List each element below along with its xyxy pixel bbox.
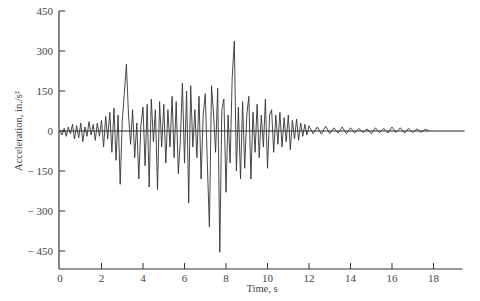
y-tick-label: − 150 [28, 165, 54, 177]
x-axis-title: Time, s [246, 283, 277, 294]
y-tick-label: 150 [37, 85, 54, 97]
x-tick-label: 2 [99, 272, 105, 284]
y-tick-label: 300 [37, 45, 54, 57]
y-tick-label: − 300 [28, 205, 54, 217]
x-tick-label: 8 [223, 272, 229, 284]
y-axis-title: Acceleration, in./s² [13, 91, 24, 171]
acceleration-waveform [60, 41, 429, 252]
y-tick-label: − 450 [28, 245, 54, 257]
x-tick-label: 0 [57, 272, 63, 284]
x-axis: 024681012141618 [57, 263, 462, 284]
x-tick-label: 16 [387, 272, 399, 284]
y-axis: 4503001500− 150− 300− 450 [28, 5, 65, 269]
x-tick-label: 6 [182, 272, 188, 284]
x-tick-label: 14 [345, 272, 357, 284]
x-tick-label: 12 [304, 272, 315, 284]
y-tick-label: 450 [37, 5, 54, 17]
acceleration-chart: 4503001500− 150− 300− 450 02468101214161… [0, 0, 480, 301]
x-tick-label: 18 [428, 272, 440, 284]
y-tick-label: 0 [48, 125, 54, 137]
x-tick-label: 4 [140, 272, 146, 284]
